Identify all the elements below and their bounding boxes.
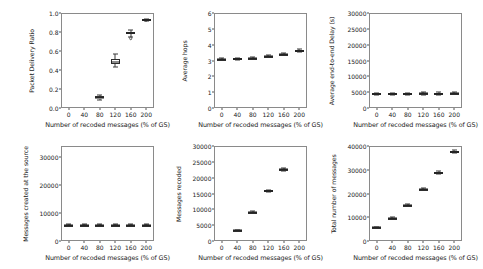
ytick-mark	[367, 217, 369, 218]
xaxis-label: Number of recoded messages (% of GS)	[336, 254, 483, 262]
median	[403, 205, 412, 206]
ytick-label: 40000	[347, 143, 369, 150]
median	[419, 188, 428, 189]
xtick-mark	[392, 241, 393, 243]
ytick-mark	[367, 241, 369, 242]
xtick-label: 200	[449, 244, 460, 251]
xtick-mark	[376, 241, 377, 243]
ytick-label: 10000	[347, 214, 369, 221]
ytick-label: 30000	[347, 166, 369, 173]
median	[450, 151, 459, 152]
yaxis-label: Total number of messages	[330, 154, 337, 233]
xtick-label: 120	[418, 244, 429, 251]
ytick-mark	[367, 193, 369, 194]
xtick-mark	[454, 241, 455, 243]
xtick-label: 160	[433, 244, 444, 251]
xtick-mark	[407, 241, 408, 243]
xtick-label: 80	[404, 244, 412, 251]
xtick-label: 40	[388, 244, 396, 251]
median	[434, 172, 443, 173]
xtick-mark	[438, 241, 439, 243]
plot-area-total-number-of-messages	[369, 146, 462, 241]
median	[388, 218, 397, 219]
ytick-mark	[367, 169, 369, 170]
xtick-label: 0	[375, 244, 379, 251]
ytick-mark	[367, 146, 369, 147]
xtick-mark	[423, 241, 424, 243]
ytick-label: 20000	[347, 190, 369, 197]
median	[372, 227, 381, 228]
